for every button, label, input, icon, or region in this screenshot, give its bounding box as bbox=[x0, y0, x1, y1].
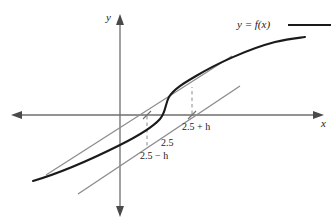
legend-label: y = f(x) bbox=[237, 19, 270, 30]
y-axis-arrow-up bbox=[116, 14, 124, 25]
x-axis-arrow-left bbox=[11, 111, 22, 119]
x-axis bbox=[11, 111, 324, 119]
tick-label-right: 2.5 + h bbox=[182, 122, 210, 132]
y-axis-arrow-down bbox=[116, 206, 124, 217]
figure-canvas: y x y = f(x) 2.5 2.5 + h 2.5 − h bbox=[0, 0, 335, 223]
function-curve bbox=[33, 37, 305, 181]
tick-label-left: 2.5 − h bbox=[140, 151, 168, 161]
x-axis-label: x bbox=[321, 118, 326, 129]
tick-label-center: 2.5 bbox=[161, 138, 174, 148]
diagram-svg bbox=[0, 0, 335, 223]
y-axis-label: y bbox=[106, 12, 111, 23]
